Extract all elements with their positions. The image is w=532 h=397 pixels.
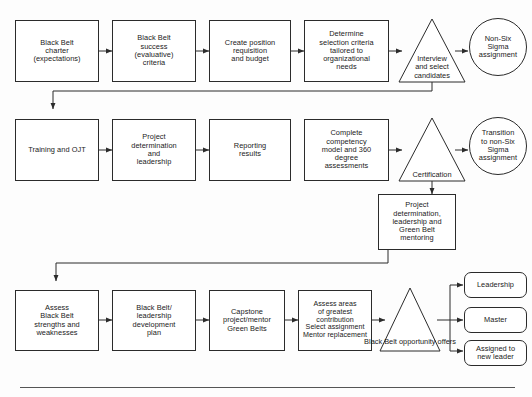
node-leadership-label: Leadership bbox=[476, 281, 515, 289]
node-assess-contribution-label: Assess areas of greatest contribution Se… bbox=[303, 301, 367, 341]
node-training-ojt-label: Training and OJT bbox=[27, 146, 87, 154]
loop-interview-to-training bbox=[53, 82, 432, 109]
node-development-plan-label: Black Belt/ leadership development plan bbox=[132, 304, 177, 337]
node-development-plan[interactable]: Black Belt/ leadership development plan bbox=[112, 290, 196, 351]
node-assess-contribution[interactable]: Assess areas of greatest contribution Se… bbox=[298, 290, 372, 351]
footer-divider bbox=[20, 387, 515, 388]
node-master-label: Master bbox=[483, 316, 508, 324]
node-determine-criteria-label: Determine selection criteria tailored to… bbox=[318, 30, 374, 71]
node-bb-opportunity[interactable]: Black Belt opportunity offers bbox=[378, 288, 442, 351]
node-complete-competency-label: Complete competency model and 360 degree… bbox=[321, 129, 373, 170]
node-transition-non-six-sigma-label: Transition to non-Six Sigma assignment bbox=[478, 129, 518, 162]
node-project-det-green-belt-label: Project determination, leadership and Gr… bbox=[391, 201, 442, 242]
node-create-position[interactable]: Create position requisition and budget bbox=[209, 20, 291, 82]
node-complete-competency[interactable]: Complete competency model and 360 degree… bbox=[304, 119, 389, 181]
node-reporting-results-label: Reporting results bbox=[233, 142, 268, 159]
node-bb-success[interactable]: Black Belt success (evaluative) criteria bbox=[112, 20, 196, 82]
node-transition-non-six-sigma[interactable]: Transition to non-Six Sigma assignment bbox=[469, 117, 527, 175]
node-assigned-new-leader[interactable]: Assigned to new leader bbox=[464, 340, 527, 366]
node-non-six-sigma-label: Non-Six Sigma assignment bbox=[478, 35, 518, 60]
node-create-position-label: Create position requisition and budget bbox=[224, 39, 276, 64]
node-bb-success-label: Black Belt success (evaluative) criteria bbox=[134, 34, 175, 67]
flowchart-diagram: Black Belt charter (expectations) Black … bbox=[0, 0, 532, 397]
node-project-determination-label: Project determination and leadership bbox=[130, 133, 177, 166]
loop-greenbelt-to-assess bbox=[56, 250, 388, 281]
node-reporting-results[interactable]: Reporting results bbox=[209, 119, 291, 181]
node-interview-select[interactable]: Interview and select candidates bbox=[396, 19, 468, 82]
node-bb-charter[interactable]: Black Belt charter (expectations) bbox=[15, 20, 99, 82]
node-leadership[interactable]: Leadership bbox=[464, 272, 527, 298]
node-assigned-new-leader-label: Assigned to new leader bbox=[475, 345, 516, 362]
node-capstone-project[interactable]: Capstone project/mentor Green Belts bbox=[209, 290, 285, 351]
node-certification[interactable]: Certification bbox=[396, 118, 468, 181]
node-training-ojt[interactable]: Training and OJT bbox=[15, 119, 99, 181]
node-project-det-green-belt[interactable]: Project determination, leadership and Gr… bbox=[378, 194, 456, 250]
node-capstone-project-label: Capstone project/mentor Green Belts bbox=[222, 308, 272, 333]
node-non-six-sigma[interactable]: Non-Six Sigma assignment bbox=[469, 18, 527, 76]
node-bb-opportunity-label: Black Belt opportunity offers bbox=[364, 338, 456, 351]
node-master[interactable]: Master bbox=[464, 307, 527, 333]
node-assess-strengths-label: Assess Black Belt strengths and weakness… bbox=[33, 304, 80, 337]
node-project-determination[interactable]: Project determination and leadership bbox=[112, 119, 196, 181]
node-interview-select-label: Interview and select candidates bbox=[414, 55, 450, 82]
node-determine-criteria[interactable]: Determine selection criteria tailored to… bbox=[304, 20, 389, 82]
node-bb-charter-label: Black Belt charter (expectations) bbox=[32, 39, 81, 64]
node-assess-strengths[interactable]: Assess Black Belt strengths and weakness… bbox=[15, 290, 99, 351]
node-certification-label: Certification bbox=[412, 171, 451, 181]
